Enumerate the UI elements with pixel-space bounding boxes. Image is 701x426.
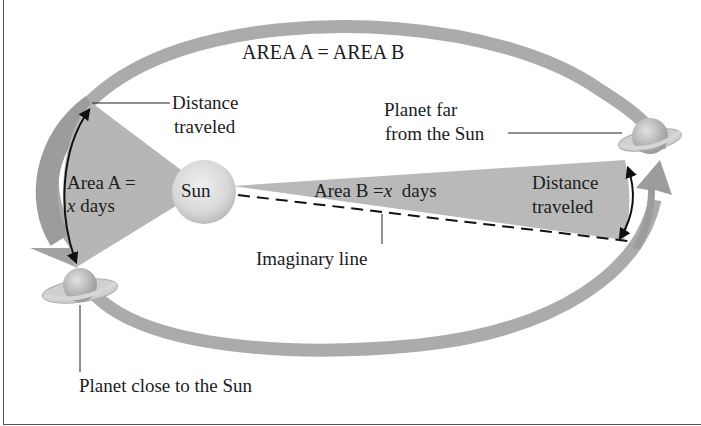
area-b-label: Area B =x days — [314, 180, 437, 202]
planet-far-label-line2: from the Sun — [385, 123, 484, 145]
planet-far-label-line1: Planet far — [384, 99, 457, 121]
area-a-label-line2: x days — [67, 195, 115, 217]
imaginary-line-label: Imaginary line — [256, 248, 367, 270]
diagram-title: AREA A = AREA B — [242, 41, 404, 63]
distance-right-label-line2: traveled — [532, 196, 593, 218]
planet-close-label: Planet close to the Sun — [79, 375, 252, 397]
distance-left-label-line2: traveled — [174, 116, 235, 138]
planet-far-icon — [617, 118, 684, 155]
kepler-second-law-diagram: AREA A = AREA B Distance traveled Area A… — [0, 0, 701, 426]
area-a-label-line1: Area A = — [67, 172, 136, 194]
distance-left-label-line1: Distance — [172, 92, 238, 114]
sun-label: Sun — [181, 180, 211, 202]
distance-right-label-line1: Distance — [532, 172, 598, 194]
